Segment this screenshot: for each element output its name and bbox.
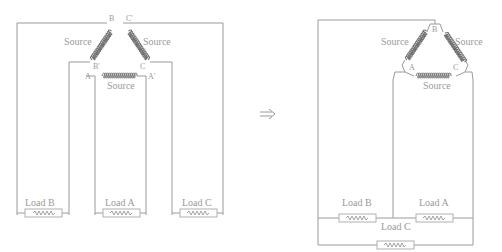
terminal-b: B [109, 14, 114, 23]
wire-a [393, 60, 405, 218]
wire-c [150, 62, 172, 215]
resistor-icon [339, 214, 376, 222]
coil-icon-source-b [90, 29, 114, 61]
coil-icon-source-bottom [416, 73, 451, 78]
load-c-label: Load C [381, 221, 411, 232]
load-a: Load A [416, 197, 453, 222]
load-b: Load B [25, 197, 62, 217]
load-a-label: Load A [105, 197, 135, 208]
source-label-bottom: Source [423, 80, 451, 91]
resistor-icon [25, 209, 62, 217]
source-label-right: Source [455, 36, 483, 47]
terminal-c-prime: C' [126, 14, 133, 23]
load-a: Load A [103, 197, 140, 217]
wire-b-outer [318, 20, 473, 245]
terminal-b-prime: B' [93, 62, 100, 71]
left-diagram: Source Source Source B C' B' C A A' Load… [17, 14, 223, 217]
transform-arrow-icon [260, 109, 275, 119]
resistor-icon [103, 209, 140, 217]
resistor-icon [180, 209, 217, 217]
wire-b-prime [69, 62, 90, 215]
wire-a-join [405, 72, 414, 76]
load-c-label: Load C [182, 197, 212, 208]
terminal-b: B [432, 25, 437, 34]
load-c: Load C [180, 197, 217, 217]
wire-load-c-to-c-prime [123, 23, 223, 215]
load-b: Load B [339, 197, 376, 222]
terminal-a: A [85, 72, 91, 81]
terminal-a: A [409, 63, 415, 72]
load-c: Load C [377, 221, 414, 249]
source-label-upper-left: Source [64, 36, 92, 47]
coil-icon-source-a [102, 73, 137, 78]
resistor-icon [377, 241, 414, 249]
source-label-left: Source [381, 36, 409, 47]
right-diagram: Source Source Source B A C Load B Load A… [318, 20, 483, 249]
load-a-label: Load A [419, 197, 449, 208]
load-b-label: Load B [25, 197, 55, 208]
source-label-bottom: Source [107, 80, 135, 91]
terminal-c: C [453, 63, 458, 72]
load-b-label: Load B [342, 197, 372, 208]
terminal-a-prime: A' [148, 72, 156, 81]
resistor-icon [416, 214, 453, 222]
wire-a-prime [137, 76, 146, 215]
terminal-c: C [140, 62, 145, 71]
wire-c [465, 60, 473, 228]
circuit-diagram: Source Source Source B C' B' C A A' Load… [0, 0, 502, 252]
wire-a [86, 76, 95, 215]
wire-c-join [456, 72, 465, 76]
source-label-upper-right: Source [143, 36, 171, 47]
